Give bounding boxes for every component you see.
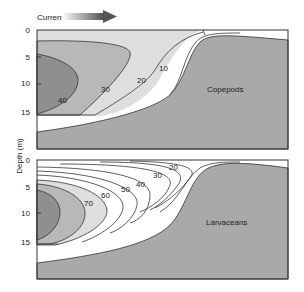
figure: Current Depth (m) 0 5 10 15 <box>0 0 304 292</box>
copepods-panel: 0 5 10 15 40 30 20 10 Copepods <box>21 26 288 149</box>
svg-text:5: 5 <box>26 183 31 192</box>
copepods-label: Copepods <box>207 85 243 94</box>
contour-label: 20 <box>169 163 178 172</box>
current-arrow: Current <box>37 10 117 23</box>
arrow-head-icon <box>103 10 117 23</box>
contour-label: 10 <box>159 64 168 73</box>
contour-label: 40 <box>136 180 145 189</box>
contour-label: 40 <box>58 96 67 105</box>
svg-text:15: 15 <box>21 238 30 247</box>
svg-text:10: 10 <box>21 79 30 88</box>
arrow-shaft <box>62 13 103 20</box>
y-axis-label: Depth (m) <box>15 138 24 174</box>
contour-label: 60 <box>101 191 110 200</box>
svg-text:0: 0 <box>26 156 31 165</box>
contour-label: 50 <box>121 185 130 194</box>
contour-label: 30 <box>153 171 162 180</box>
current-label: Current <box>37 13 64 22</box>
svg-text:15: 15 <box>21 108 30 117</box>
contour-label: 30 <box>101 85 110 94</box>
larvaceans-panel: 0 5 10 15 70 60 50 40 30 20 Larvaceans <box>21 156 288 279</box>
svg-text:5: 5 <box>26 53 31 62</box>
larvaceans-label: Larvaceans <box>206 218 247 227</box>
svg-text:0: 0 <box>26 26 31 35</box>
contour-label: 20 <box>137 76 146 85</box>
contour-label: 70 <box>84 199 93 208</box>
svg-text:10: 10 <box>21 209 30 218</box>
